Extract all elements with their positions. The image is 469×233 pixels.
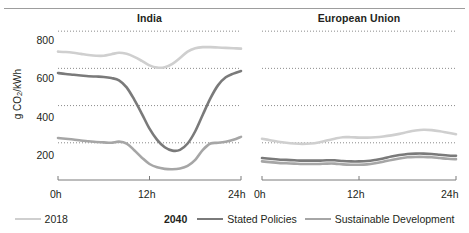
y-axis-title: g CO2/kWh [12, 50, 24, 138]
legend-item-2018: 2018 [15, 213, 68, 225]
x-tick-label-eu-12h: 12h [347, 188, 365, 200]
plot-area-european-union [262, 20, 456, 180]
legend-label-sustainable-development: Sustainable Development [335, 213, 455, 225]
legend-item-sustainable-development: Sustainable Development [305, 213, 455, 225]
y-tick-label-600: 600 [20, 72, 54, 84]
series-line-sustainable-development [58, 137, 241, 169]
legend-label-stated-policies: Stated Policies [227, 213, 296, 225]
x-tick-label-india-0h: 0h [50, 188, 62, 200]
x-tick-label-india-24h: 24h [228, 188, 246, 200]
legend-swatch-sustainable-development [305, 218, 331, 221]
y-tick-label-400: 400 [20, 111, 54, 123]
legend-item-stated-policies: Stated Policies [197, 213, 296, 225]
header-divider [4, 8, 465, 9]
series-line-2018 [262, 130, 456, 144]
legend-swatch-2018 [15, 218, 41, 221]
series-line-stated-policies [58, 71, 241, 151]
x-tick-label-india-12h: 12h [138, 188, 156, 200]
emissions-intensity-figure: India European Union g CO2/kWh 800 600 4… [0, 0, 469, 233]
legend-swatch-stated-policies [197, 218, 223, 221]
y-tick-label-200: 200 [20, 149, 54, 161]
y-tick-label-800: 800 [20, 34, 54, 46]
y-axis-title-subscript: 2 [15, 92, 24, 96]
legend: 2018 2040 Stated Policies Sustainable De… [0, 208, 469, 230]
legend-label-2018: 2018 [45, 213, 68, 225]
x-tick-label-eu-0h: 0h [254, 188, 266, 200]
x-tick-label-eu-24h: 24h [441, 188, 459, 200]
series-line-2018 [58, 47, 241, 68]
plot-area-india [58, 20, 241, 180]
legend-group-label-2040: 2040 [164, 213, 187, 225]
